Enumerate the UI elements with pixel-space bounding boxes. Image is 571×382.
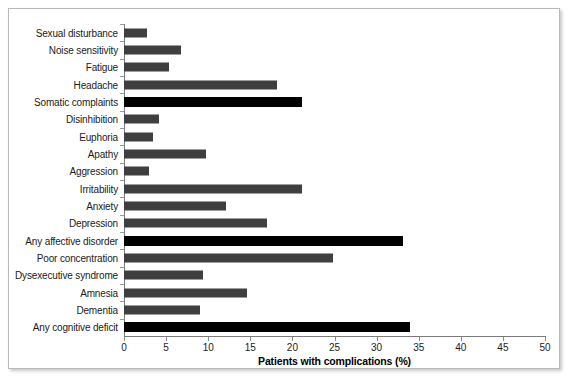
x-axis-tick <box>503 337 504 341</box>
bar <box>124 201 226 210</box>
chart-row: Euphoria <box>124 128 545 145</box>
y-axis-tick <box>120 128 124 129</box>
category-label: Poor concentration <box>37 252 118 263</box>
category-label: Aggression <box>69 166 118 177</box>
x-axis-tick-label: 45 <box>497 342 508 354</box>
x-axis-tick <box>461 337 462 341</box>
y-axis-tick <box>120 319 124 320</box>
bar <box>124 45 181 54</box>
chart-row: Fatigue <box>124 59 545 76</box>
category-label: Noise sensitivity <box>49 44 118 55</box>
x-axis-tick-label: 0 <box>121 342 127 354</box>
bar <box>124 288 247 297</box>
x-axis-tick <box>545 337 546 341</box>
bar <box>124 115 159 124</box>
x-axis-tick <box>250 337 251 341</box>
bar <box>124 271 203 280</box>
bar <box>124 97 302 107</box>
category-label: Dysexecutive syndrome <box>15 270 118 281</box>
x-axis-tick <box>124 337 125 341</box>
category-label: Disinhibition <box>66 114 118 125</box>
x-axis-title: Patients with complications (%) <box>124 355 545 367</box>
category-label: Headache <box>74 79 118 90</box>
bar <box>124 80 277 89</box>
y-axis-tick <box>120 59 124 60</box>
chart-row: Amnesia <box>124 284 545 301</box>
y-axis-tick <box>120 284 124 285</box>
category-label: Depression <box>69 218 118 229</box>
chart-row: Irritability <box>124 180 545 197</box>
category-label: Sexual disturbance <box>36 27 118 38</box>
category-label: Dementia <box>76 304 118 315</box>
chart-row: Sexual disturbance <box>124 24 545 41</box>
bar <box>124 184 302 193</box>
bar <box>124 253 333 262</box>
x-axis-tick-label: 40 <box>455 342 466 354</box>
bar <box>124 63 169 72</box>
category-label: Irritability <box>80 183 118 194</box>
chart-row: Dysexecutive syndrome <box>124 267 545 284</box>
y-axis-tick <box>120 180 124 181</box>
chart-row: Depression <box>124 215 545 232</box>
x-axis-tick <box>166 337 167 341</box>
y-axis-tick <box>120 76 124 77</box>
bar <box>124 149 206 158</box>
y-axis-tick <box>120 215 124 216</box>
plot-area: Sexual disturbanceNoise sensitivityFatig… <box>124 24 545 336</box>
bar <box>124 305 200 314</box>
x-axis-tick-label: 25 <box>329 342 340 354</box>
chart-row: Apathy <box>124 145 545 162</box>
x-axis-tick-label: 35 <box>413 342 424 354</box>
chart-row: Noise sensitivity <box>124 41 545 58</box>
y-axis-tick <box>120 163 124 164</box>
x-axis-tick-label: 5 <box>163 342 169 354</box>
y-axis-tick <box>120 93 124 94</box>
chart-row: Aggression <box>124 163 545 180</box>
category-label: Euphoria <box>79 131 118 142</box>
chart-row: Anxiety <box>124 197 545 214</box>
category-label: Apathy <box>88 148 118 159</box>
category-label: Anxiety <box>86 200 118 211</box>
x-axis-tick-label: 30 <box>371 342 382 354</box>
chart-row: Any cognitive deficit <box>124 319 545 336</box>
chart-row: Dementia <box>124 301 545 318</box>
y-axis-tick <box>120 197 124 198</box>
bar <box>124 28 147 37</box>
y-axis-tick <box>120 111 124 112</box>
x-axis-tick <box>377 337 378 341</box>
x-axis-tick-label: 20 <box>287 342 298 354</box>
x-axis-tick <box>335 337 336 341</box>
y-axis-tick <box>120 249 124 250</box>
chart-row: Somatic complaints <box>124 93 545 110</box>
x-axis-tick-label: 50 <box>539 342 550 354</box>
y-axis-tick <box>120 145 124 146</box>
bar <box>124 219 267 228</box>
bar <box>124 236 403 246</box>
x-axis-tick <box>292 337 293 341</box>
category-label: Fatigue <box>86 62 118 73</box>
x-axis-tick <box>419 337 420 341</box>
figure-container: Sexual disturbanceNoise sensitivityFatig… <box>0 0 571 382</box>
chart-row: Any affective disorder <box>124 232 545 249</box>
chart-row: Disinhibition <box>124 111 545 128</box>
category-label: Somatic complaints <box>34 96 118 107</box>
bar <box>124 322 410 332</box>
chart-row: Poor concentration <box>124 249 545 266</box>
category-label: Any affective disorder <box>25 235 118 246</box>
y-axis-tick <box>120 24 124 25</box>
x-axis-tick-label: 15 <box>245 342 256 354</box>
x-axis-tick-label: 10 <box>203 342 214 354</box>
bar <box>124 167 149 176</box>
bar <box>124 132 153 141</box>
category-label: Any cognitive deficit <box>33 322 118 333</box>
chart-row: Headache <box>124 76 545 93</box>
y-axis-tick <box>120 232 124 233</box>
category-label: Amnesia <box>80 287 118 298</box>
x-axis-tick <box>208 337 209 341</box>
y-axis-tick <box>120 41 124 42</box>
y-axis-tick <box>120 267 124 268</box>
y-axis-tick <box>120 301 124 302</box>
